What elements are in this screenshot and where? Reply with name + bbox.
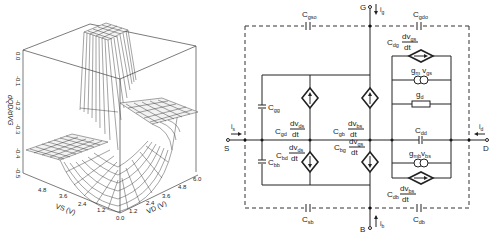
capacitor-cgso: Cgso bbox=[302, 10, 317, 30]
svg-text:dvbs: dvbs bbox=[348, 119, 363, 129]
source-terminal: S is bbox=[224, 123, 242, 153]
conductance-gd: gd bbox=[412, 90, 430, 107]
x-tick: 0.0 bbox=[116, 215, 125, 221]
x-axis: 4.8 3.6 2.4 1.2 0.0 VS (V) bbox=[38, 187, 125, 221]
svg-text:ig: ig bbox=[380, 6, 385, 15]
svg-text:Csb: Csb bbox=[302, 215, 314, 225]
capacitor-cdd: Cdd bbox=[415, 126, 427, 144]
y-tick: 3.6 bbox=[162, 193, 171, 199]
svg-text:Cbg: Cbg bbox=[334, 143, 346, 153]
bulk-terminal: B ib bbox=[360, 185, 385, 234]
svg-text:Cdg: Cdg bbox=[387, 38, 399, 48]
y-axis: 1.2 2.4 3.6 4.8 6.0 VD (V) bbox=[129, 176, 202, 216]
z-tick: -0.1 bbox=[15, 76, 21, 87]
capacitor-csb: Csb bbox=[302, 204, 314, 225]
current-source-gmb: gmbvbs bbox=[409, 149, 431, 167]
drain-terminal: D id bbox=[474, 123, 489, 153]
svg-text:dt: dt bbox=[351, 148, 358, 157]
svg-text:is: is bbox=[231, 123, 236, 132]
z-tick: -0.5 bbox=[15, 168, 21, 179]
svg-text:Cgg: Cgg bbox=[268, 103, 280, 113]
svg-text:dvgs: dvgs bbox=[402, 32, 417, 42]
svg-text:Cdb: Cdb bbox=[413, 215, 425, 225]
svg-text:dvds: dvds bbox=[290, 119, 305, 129]
x-tick: 4.8 bbox=[38, 187, 47, 193]
z-tick: 0.0 bbox=[15, 52, 21, 61]
svg-text:dvds: dvds bbox=[289, 143, 304, 153]
svg-text:Cgdo: Cgdo bbox=[413, 10, 428, 20]
svg-text:dt: dt bbox=[291, 154, 298, 163]
svg-text:Cdb: Cdb bbox=[387, 190, 399, 200]
intrinsic-drain-network: Cdg dvgs dt gm vgs gd Cdd bbox=[387, 32, 451, 204]
dependent-source-cdb: Cdb dvbs dt bbox=[387, 172, 433, 204]
gate-label: G bbox=[360, 3, 366, 12]
dependent-source-cdg: Cdg dvgs dt bbox=[387, 32, 433, 62]
svg-text:Cbd: Cbd bbox=[276, 151, 288, 161]
dependent-source-cbd: Cbd dvds dt bbox=[276, 143, 318, 172]
surface-mesh bbox=[26, 23, 198, 212]
z-tick: -0.4 bbox=[15, 148, 21, 159]
x-tick: 2.4 bbox=[78, 201, 87, 207]
capacitor-cdb-ext: Cdb bbox=[413, 204, 425, 225]
capacitor-cgdo: Cgdo bbox=[413, 10, 428, 30]
mosfet-equivalent-circuit: Cgso Cgdo Csb Cdb G ig B bbox=[224, 3, 489, 234]
gate-terminal: G ig bbox=[360, 3, 385, 75]
dependent-source-cgb: Cgb dvbs dt bbox=[333, 88, 378, 139]
svg-text:dt: dt bbox=[402, 195, 409, 204]
svg-text:gm vgs: gm vgs bbox=[411, 66, 432, 76]
x-tick: 1.2 bbox=[97, 207, 106, 213]
y-tick: 6.0 bbox=[193, 176, 202, 182]
figure: 0.0 -0.1 -0.2 -0.3 -0.4 -0.5 dQD/dVG 4.8… bbox=[0, 0, 492, 237]
surface-plot-3d: 0.0 -0.1 -0.2 -0.3 -0.4 -0.5 dQD/dVG 4.8… bbox=[6, 23, 202, 221]
svg-text:Cgb: Cgb bbox=[333, 127, 345, 137]
current-source-gm: gm vgs bbox=[411, 66, 432, 84]
svg-text:gd: gd bbox=[416, 90, 424, 100]
drain-label: D bbox=[483, 144, 489, 153]
svg-text:dt: dt bbox=[292, 130, 299, 139]
intrinsic-gate-bulk-network: Cgg Cbb Cgd dvds dt bbox=[258, 75, 378, 185]
capacitor-cgg: Cgg bbox=[258, 103, 280, 113]
svg-text:Cdd: Cdd bbox=[415, 126, 427, 136]
svg-text:Cgso: Cgso bbox=[302, 10, 317, 20]
svg-text:dvgs: dvgs bbox=[349, 137, 364, 147]
z-tick: -0.2 bbox=[15, 100, 21, 111]
svg-text:id: id bbox=[479, 123, 484, 132]
x-tick: 3.6 bbox=[59, 193, 68, 199]
z-tick: -0.3 bbox=[15, 124, 21, 135]
extrinsic-boundary bbox=[245, 26, 469, 208]
z-axis-label: dQD/dVG bbox=[6, 95, 14, 126]
dependent-source-cbg: Cbg dvgs dt bbox=[334, 137, 378, 172]
svg-text:ib: ib bbox=[380, 220, 385, 229]
x-axis-label: VS (V) bbox=[54, 202, 76, 217]
svg-text:dvbs: dvbs bbox=[400, 184, 415, 194]
z-axis: 0.0 -0.1 -0.2 -0.3 -0.4 -0.5 dQD/dVG bbox=[6, 52, 21, 179]
y-tick: 1.2 bbox=[129, 208, 138, 214]
dependent-source-cgd: Cgd dvds dt bbox=[275, 88, 318, 139]
source-label: S bbox=[224, 144, 229, 153]
svg-text:gmbvbs: gmbvbs bbox=[409, 149, 431, 159]
y-tick: 4.8 bbox=[178, 184, 187, 190]
svg-text:dt: dt bbox=[404, 43, 411, 52]
svg-text:Cgd: Cgd bbox=[275, 127, 287, 137]
bulk-label: B bbox=[360, 225, 365, 234]
